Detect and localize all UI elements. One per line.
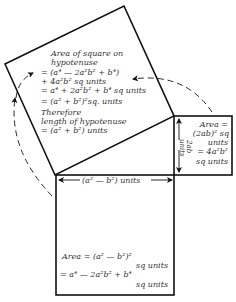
side-label-2ab: 2ab	[185, 140, 193, 153]
hypotenuse-line-2: hypotenuse	[51, 58, 98, 67]
bottom-square-side-label: (a² — b²) units	[82, 176, 140, 185]
hypotenuse-line-5: = a⁴ + 2a²b² + b⁴ sq units	[41, 86, 146, 95]
side-label-units: units	[178, 139, 186, 157]
bottom-square-line-2: sq units	[120, 261, 168, 270]
hypotenuse-line-4: + 4a²b² sq units	[41, 77, 106, 86]
bottom-square-line-4: sq units	[120, 280, 168, 289]
small-square-line-4: = 4a²b²	[197, 147, 228, 156]
hypotenuse-line-1: Area of square on	[51, 49, 123, 58]
small-square-line-2: (2ab)² sq	[193, 129, 229, 138]
small-square-line-5: sq units	[196, 157, 228, 166]
hypotenuse-line-3: = (a⁴ — 2a²b² + b⁴)	[41, 68, 119, 77]
hypotenuse-line-7: Therefore	[41, 108, 81, 117]
small-square-line-1: Area =	[200, 120, 228, 129]
hypotenuse-line-6: = (a² + b²)²sq. units	[41, 97, 122, 106]
small-square-side-label: 2ab	[185, 140, 192, 153]
small-square-side-label-units: units	[178, 139, 185, 157]
hypotenuse-line-8: length of hypotenuse	[41, 117, 127, 126]
bottom-square-line-1: Area = (a² — b²)²	[62, 252, 132, 261]
hypotenuse-line-9: = (a² + b²) units	[41, 126, 107, 135]
small-square-line-3: units	[208, 138, 228, 147]
bottom-square-line-3: = a⁴ — 2a²b² + b⁴	[60, 270, 132, 279]
